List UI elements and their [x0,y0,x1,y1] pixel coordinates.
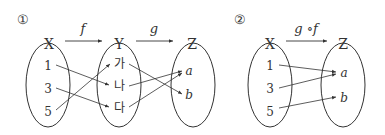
set-y-label: Y [113,36,124,52]
set-z-ellipse [171,43,215,127]
y-element-da: 다 [114,101,125,115]
diagram-2: ② X Z g ∘f 1 3 5 a b [234,12,365,127]
function-diagrams: ① X Y Z f g 1 3 5 가 나 다 a b ② [0,0,385,135]
set-x-label: X [44,36,54,52]
g-label: g [150,21,158,36]
x2-element-5: 5 [266,105,274,119]
diagram-1: ① X Y Z f g 1 3 5 가 나 다 a b [17,12,215,127]
z-element-b: b [185,88,193,102]
f-map-5-ga [56,64,110,110]
x2-element-1: 1 [266,59,274,73]
diagram-1-number: ① [17,12,29,27]
y-element-ga: 가 [114,57,125,71]
x2-element-3: 3 [266,82,274,96]
gf-map-5-b [279,97,336,108]
z-element-a: a [185,64,192,78]
f-map-1-na [56,65,109,85]
x-element-1: 1 [44,59,52,73]
g-map-ga-b [129,64,182,94]
set-x-label-2: X [265,36,275,52]
x-element-3: 3 [44,82,52,96]
z2-element-a: a [340,66,347,80]
gf-map-3-a [279,74,336,88]
x-element-5: 5 [44,105,52,119]
y-element-na: 나 [114,79,125,93]
set-z-ellipse-2 [321,43,365,127]
composite-label: g ∘f [294,21,320,36]
f-map-3-da [56,88,109,107]
diagram-2-number: ② [234,12,246,27]
z2-element-b: b [340,91,348,105]
gf-map-1-a [279,65,336,72]
f-label: f [80,21,88,36]
set-z-label-2: Z [338,36,348,52]
set-z-label: Z [187,36,197,52]
